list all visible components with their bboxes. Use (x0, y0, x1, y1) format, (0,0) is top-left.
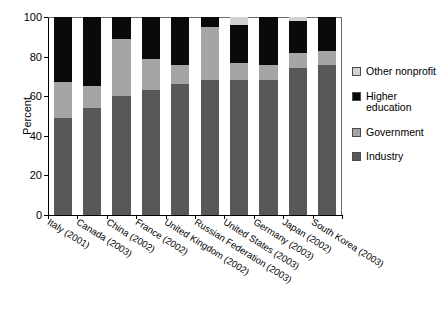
bar (230, 17, 248, 215)
bar-segment-government (112, 39, 130, 96)
bar-segment-government (201, 27, 219, 80)
legend-label: Industry (366, 151, 403, 163)
bar (201, 17, 219, 215)
bar-segment-industry (201, 80, 219, 215)
bar-segment-industry (318, 65, 336, 215)
bar-segment-government (318, 51, 336, 65)
bar-segment-government (142, 59, 160, 91)
bar-segment-higher (259, 17, 277, 65)
x-tick (342, 215, 343, 219)
bar-segment-government (289, 53, 307, 69)
bar-segment-higher (83, 17, 101, 86)
legend-swatch-icon (352, 92, 361, 101)
bar-segment-government (83, 86, 101, 108)
legend-item-higher: Higher education (352, 91, 440, 114)
y-tick-label: 0 (36, 210, 42, 221)
bar (142, 17, 160, 215)
bar (289, 17, 307, 215)
bar-segment-government (230, 63, 248, 81)
bar (112, 17, 130, 215)
plot-area: Percent 020406080100 (48, 17, 342, 215)
bar-segment-government (171, 65, 189, 85)
y-tick-label: 60 (30, 91, 42, 102)
y-tick-label: 20 (30, 170, 42, 181)
legend-label: Other nonprofit (366, 66, 436, 78)
legend-label: Higher education (366, 91, 440, 114)
bar (259, 17, 277, 215)
bar-segment-higher (318, 17, 336, 51)
bar-segment-industry (259, 80, 277, 215)
bar-segment-higher (289, 21, 307, 53)
bar (83, 17, 101, 215)
x-axis-labels: Italy (2001)Canada (2003)China (2002)Fra… (48, 217, 342, 317)
chart-legend: Other nonprofitHigher educationGovernmen… (352, 66, 440, 176)
bar-segment-other (230, 17, 248, 25)
bar (318, 17, 336, 215)
legend-item-government: Government (352, 127, 440, 139)
y-tick-label: 100 (24, 12, 42, 23)
legend-label: Government (366, 127, 424, 139)
y-tick-label: 40 (30, 130, 42, 141)
bar-segment-industry (289, 68, 307, 215)
bar-segment-industry (171, 84, 189, 215)
bar-segment-higher (230, 25, 248, 63)
legend-swatch-icon (352, 128, 361, 137)
bar-segment-higher (142, 17, 160, 59)
bar-segment-industry (54, 118, 72, 215)
bar-segment-higher (171, 17, 189, 65)
bar-segment-government (54, 82, 72, 118)
legend-swatch-icon (352, 67, 361, 76)
bar (54, 17, 72, 215)
bar-segment-industry (142, 90, 160, 215)
y-tick-label: 80 (30, 51, 42, 62)
bar-segment-higher (201, 17, 219, 27)
bar (171, 17, 189, 215)
legend-swatch-icon (352, 152, 361, 161)
bar-segment-industry (112, 96, 130, 215)
bar-segment-government (259, 65, 277, 81)
bar-segment-industry (230, 80, 248, 215)
bar-segment-industry (83, 108, 101, 215)
legend-item-other: Other nonprofit (352, 66, 440, 78)
bar-segment-higher (54, 17, 72, 82)
bar-group (48, 17, 342, 215)
stacked-bar-chart: Percent 020406080100 Italy (2001)Canada … (0, 0, 443, 329)
bar-segment-higher (112, 17, 130, 39)
legend-item-industry: Industry (352, 151, 440, 163)
